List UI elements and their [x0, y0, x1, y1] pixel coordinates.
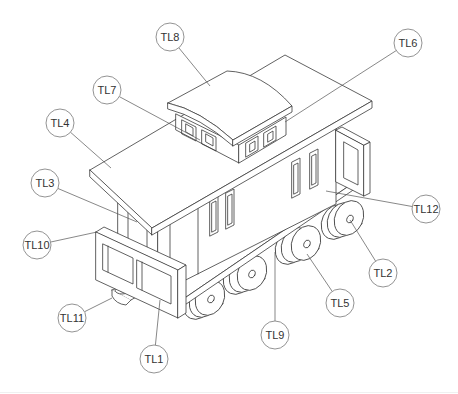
leader-line	[85, 298, 112, 312]
callout-tl4: TL4	[46, 109, 111, 168]
callout-label: TL11	[60, 312, 84, 324]
leader-line	[179, 48, 210, 86]
leader-line	[70, 132, 111, 168]
leader-line	[51, 232, 97, 242]
callout-tl8: TL8	[156, 23, 210, 86]
callout-tl5: TL5	[307, 254, 354, 317]
bottom-rule	[0, 392, 458, 393]
leader-line	[350, 220, 376, 261]
callout-label: TL2	[374, 267, 393, 279]
callout-label: TL12	[413, 203, 438, 215]
leader-line	[307, 254, 332, 291]
callout-label: TL3	[36, 177, 55, 189]
callout-label: TL1	[145, 353, 164, 365]
callout-label: TL6	[399, 37, 418, 49]
callout-label: TL4	[51, 117, 70, 129]
callout-tl11: TL11	[58, 298, 112, 332]
callout-label: TL7	[98, 84, 117, 96]
callout-label: TL5	[331, 297, 350, 309]
callout-label: TL9	[266, 329, 285, 341]
caboose-assembly-drawing: TL8TL6TL7TL4TL3TL10TL11TL1TL9TL5TL2TL12	[0, 0, 458, 394]
callout-tl10: TL10	[23, 231, 97, 259]
callout-label: TL10	[24, 239, 49, 251]
callout-label: TL8	[161, 31, 180, 43]
